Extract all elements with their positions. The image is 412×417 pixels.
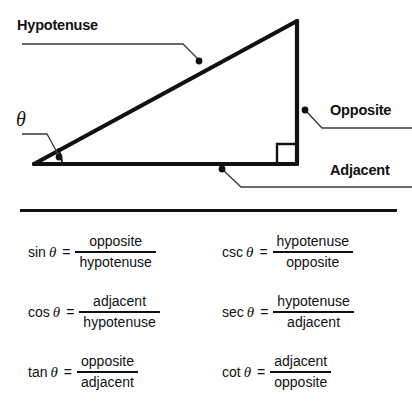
formula-theta-symbol: θ (50, 364, 57, 381)
formula-cot: cot θ = adjacent opposite (208, 354, 412, 389)
opposite-leader-dot (302, 107, 309, 114)
fraction-numerator: opposite (85, 234, 146, 249)
formula-row: tan θ = opposite adjacent cot θ = adjace… (0, 342, 412, 402)
formula-equals-sign: = (259, 244, 267, 260)
fraction-bar (270, 371, 331, 373)
formula-fraction: hypotenuse opposite (273, 234, 353, 269)
formula-sec: sec θ = hypotenuse adjacent (208, 294, 412, 329)
right-angle-marker (277, 144, 297, 164)
hypotenuse-side (34, 21, 297, 164)
formula-equals-sign: = (260, 304, 268, 320)
hypotenuse-label: Hypotenuse (17, 17, 98, 33)
formula-fraction: opposite adjacent (77, 354, 138, 389)
formula-theta-symbol: θ (53, 304, 60, 321)
fraction-numerator: hypotenuse (273, 294, 353, 309)
formula-theta-symbol: θ (244, 364, 251, 381)
fraction-numerator: adjacent (89, 294, 150, 309)
fraction-bar (75, 251, 155, 253)
fraction-denominator: hypotenuse (75, 255, 155, 270)
fraction-bar (77, 371, 138, 373)
horizontal-divider (20, 209, 397, 212)
fraction-bar (273, 311, 353, 313)
formula-row: cos θ = adjacent hypotenuse sec θ = hypo… (0, 282, 412, 342)
formula-function-name: tan (28, 364, 47, 380)
fraction-numerator: hypotenuse (273, 234, 353, 249)
formula-fraction: hypotenuse adjacent (273, 294, 353, 329)
formula-theta-symbol: θ (247, 304, 254, 321)
formula-tan: tan θ = opposite adjacent (0, 354, 208, 389)
formula-cos: cos θ = adjacent hypotenuse (0, 294, 208, 329)
formula-row: sin θ = opposite hypotenuse csc θ = hypo… (0, 222, 412, 282)
triangle-diagram: Hypotenuse Opposite Adjacent θ (0, 0, 412, 212)
formula-equals-sign: = (257, 364, 265, 380)
formula-function-name: cos (28, 304, 50, 320)
formula-fraction: adjacent opposite (270, 354, 331, 389)
fraction-denominator: opposite (270, 375, 331, 390)
formula-fraction: adjacent hypotenuse (79, 294, 159, 329)
hypotenuse-leader-dot (196, 58, 203, 65)
adjacent-label: Adjacent (330, 162, 390, 178)
opposite-label: Opposite (330, 102, 391, 118)
formula-equals-sign: = (66, 304, 74, 320)
fraction-denominator: opposite (282, 255, 343, 270)
formula-theta-symbol: θ (49, 244, 56, 261)
formula-csc: csc θ = hypotenuse opposite (208, 234, 412, 269)
formula-function-name: sec (222, 304, 244, 320)
fraction-bar (273, 251, 353, 253)
fraction-denominator: adjacent (77, 375, 138, 390)
fraction-denominator: hypotenuse (79, 315, 159, 330)
formula-equals-sign: = (62, 244, 70, 260)
fraction-denominator: adjacent (283, 315, 344, 330)
formula-sin: sin θ = opposite hypotenuse (0, 234, 208, 269)
formula-function-name: sin (28, 244, 46, 260)
trig-formula-table: sin θ = opposite hypotenuse csc θ = hypo… (0, 222, 412, 417)
adjacent-leader-dot (219, 166, 226, 173)
formula-function-name: cot (222, 364, 241, 380)
theta-angle-label: θ (16, 108, 26, 131)
fraction-numerator: adjacent (270, 354, 331, 369)
formula-fraction: opposite hypotenuse (75, 234, 155, 269)
formula-equals-sign: = (64, 364, 72, 380)
fraction-bar (79, 311, 159, 313)
hypotenuse-leader-line (22, 44, 199, 60)
formula-function-name: csc (222, 244, 243, 260)
fraction-numerator: opposite (77, 354, 138, 369)
trigonometry-reference-figure: Hypotenuse Opposite Adjacent θ sin θ = o… (0, 0, 412, 417)
theta-leader-dot (56, 154, 63, 161)
formula-theta-symbol: θ (246, 244, 253, 261)
